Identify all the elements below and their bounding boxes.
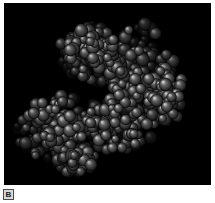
panel-label-b: B	[3, 189, 14, 200]
figure-image-panel	[4, 3, 211, 185]
figure-root: B	[0, 0, 215, 203]
molecular-model-image	[4, 3, 211, 185]
